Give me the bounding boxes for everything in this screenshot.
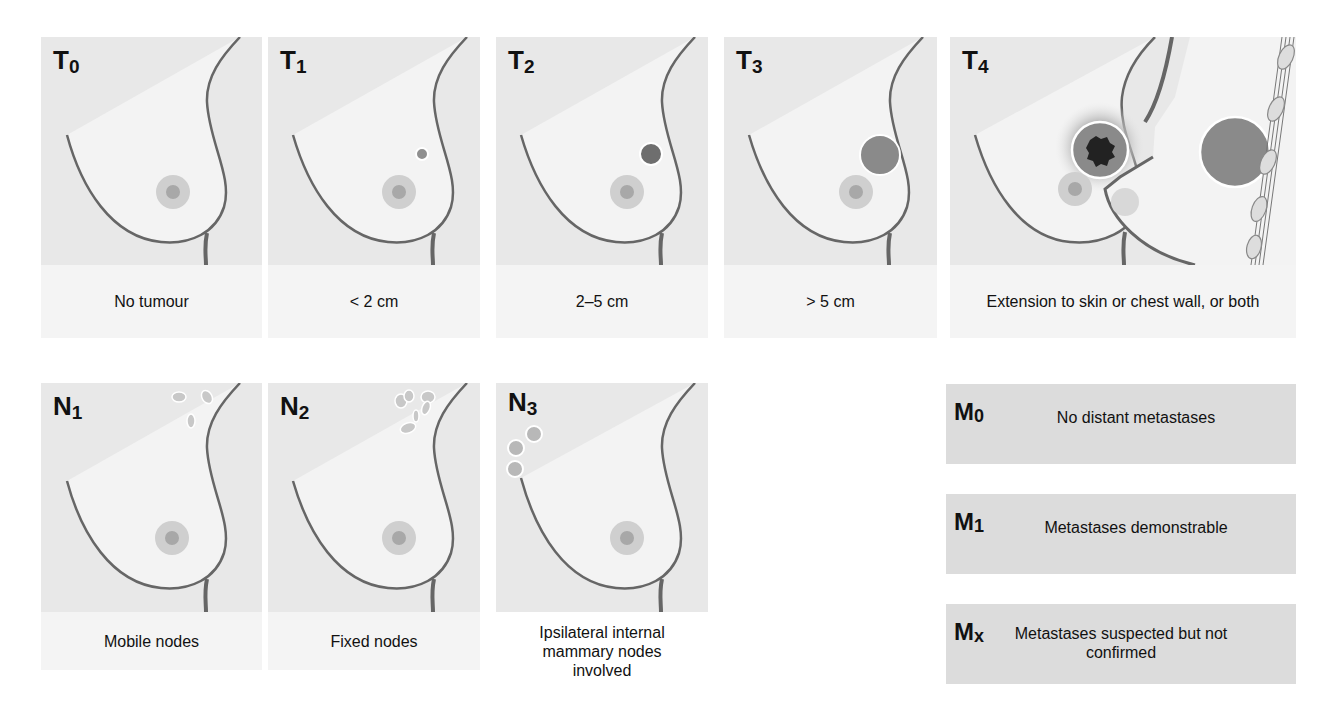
panel-n3: N3 Ipsilateral internal mammary nodes in… — [496, 383, 708, 690]
panel-mx: Mx Metastases suspected but not confirme… — [946, 604, 1296, 684]
breast-illustration: T2 — [496, 37, 708, 265]
stage-caption: Mobile nodes — [41, 612, 262, 670]
panel-t4: T4 Extension to skin or chest wall, or b… — [950, 37, 1296, 338]
panel-t0: T0 No tumour — [41, 37, 262, 338]
breast-illustration: N1 — [41, 383, 262, 612]
stage-label: N2 — [280, 393, 309, 426]
panel-t3: T3 > 5 cm — [724, 37, 937, 338]
stage-label: T2 — [508, 47, 534, 80]
stage-caption: No distant metastases — [1006, 408, 1266, 427]
stage-caption: Ipsilateral internal mammary nodes invol… — [496, 612, 708, 690]
stage-label: T1 — [280, 47, 306, 80]
breast-illustration: T3 — [724, 37, 937, 265]
stage-label: T3 — [736, 47, 762, 80]
breast-illustration: T0 — [41, 37, 262, 265]
panel-m1: M1 Metastases demonstrable — [946, 494, 1296, 574]
stage-caption: Metastases suspected but not confirmed — [1006, 624, 1236, 662]
stage-caption: < 2 cm — [268, 265, 480, 338]
stage-label: M0 — [954, 400, 984, 428]
stage-label: T4 — [962, 47, 988, 80]
panel-m0: M0 No distant metastases — [946, 384, 1296, 464]
breast-diagram-icon — [950, 37, 1296, 265]
stage-caption: 2–5 cm — [496, 265, 708, 338]
stage-label: T0 — [53, 47, 79, 80]
stage-label: N1 — [53, 393, 82, 426]
stage-caption: > 5 cm — [724, 265, 937, 338]
panel-n1: N1 Mobile nodes — [41, 383, 262, 690]
stage-caption: Extension to skin or chest wall, or both — [950, 265, 1296, 338]
panel-t2: T2 2–5 cm — [496, 37, 708, 338]
panel-t1: T1 < 2 cm — [268, 37, 480, 338]
breast-illustration: T4 — [950, 37, 1296, 265]
panel-n2: N2 Fixed nodes — [268, 383, 480, 690]
stage-label: M1 — [954, 510, 984, 538]
stage-caption: No tumour — [41, 265, 262, 338]
stage-caption: Metastases demonstrable — [996, 518, 1276, 537]
stage-caption: Fixed nodes — [268, 612, 480, 670]
breast-illustration: N2 — [268, 383, 480, 612]
breast-illustration: N3 — [496, 383, 708, 612]
breast-illustration: T1 — [268, 37, 480, 265]
stage-label: N3 — [508, 389, 537, 422]
stage-label: Mx — [954, 620, 984, 648]
